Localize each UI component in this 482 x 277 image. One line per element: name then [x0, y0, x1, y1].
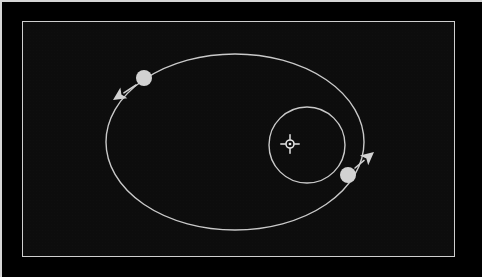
- outer-edge-top-line: [0, 0, 482, 2]
- screenshot-root: [0, 0, 482, 277]
- orbit-path-inner-orbit: [269, 107, 345, 183]
- orbit-diagram-svg[interactable]: [23, 22, 455, 257]
- velocity-arrow-head-icon-outer-body: [113, 88, 127, 100]
- velocity-arrow-shaft-inner-body: [355, 160, 364, 168]
- orbiting-body-inner-body[interactable]: [340, 167, 356, 183]
- central-body-group[interactable]: [281, 135, 299, 153]
- orbit-viewport-panel[interactable]: [22, 21, 455, 257]
- outer-edge-left-line: [0, 0, 2, 277]
- orbiting-body-outer-body[interactable]: [136, 70, 152, 86]
- central-body-core-icon: [289, 143, 292, 146]
